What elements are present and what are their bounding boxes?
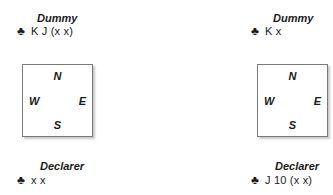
declarer-label: Declarer bbox=[275, 160, 319, 172]
compass-north: N bbox=[23, 70, 92, 82]
compass-east: E bbox=[314, 95, 321, 107]
dummy-cards: K x bbox=[265, 25, 282, 37]
club-suit-icon: ♣ bbox=[17, 174, 31, 186]
declarer-cards: J 10 (x x) bbox=[265, 174, 312, 186]
bridge-diagram-left: Dummy ♣ K J (x x) N W E S Declarer ♣ x x bbox=[0, 0, 120, 195]
declarer-cards: x x bbox=[31, 174, 46, 186]
dummy-label: Dummy bbox=[37, 12, 77, 24]
compass-south: S bbox=[23, 119, 92, 131]
declarer-holding: ♣ x x bbox=[17, 174, 46, 186]
dummy-holding: ♣ K J (x x) bbox=[17, 25, 73, 37]
compass-box: N W E S bbox=[257, 64, 328, 137]
compass-south: S bbox=[258, 119, 327, 131]
declarer-label: Declarer bbox=[40, 160, 84, 172]
compass-west: W bbox=[264, 95, 274, 107]
dummy-label: Dummy bbox=[273, 12, 313, 24]
compass-west: W bbox=[29, 95, 39, 107]
dummy-holding: ♣ K x bbox=[251, 25, 282, 37]
club-suit-icon: ♣ bbox=[17, 25, 31, 37]
declarer-holding: ♣ J 10 (x x) bbox=[251, 174, 312, 186]
club-suit-icon: ♣ bbox=[251, 174, 265, 186]
club-suit-icon: ♣ bbox=[251, 25, 265, 37]
dummy-cards: K J (x x) bbox=[31, 25, 73, 37]
compass-east: E bbox=[79, 95, 86, 107]
compass-box: N W E S bbox=[22, 64, 93, 137]
bridge-diagram-right: Dummy ♣ K x N W E S Declarer ♣ J 10 (x x… bbox=[210, 0, 333, 195]
compass-north: N bbox=[258, 70, 327, 82]
